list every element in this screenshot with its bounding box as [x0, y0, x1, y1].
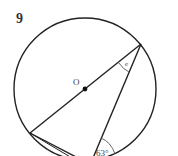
- center-label: O: [73, 77, 80, 87]
- angle-63-label: 63°: [96, 148, 109, 156]
- angle-e-label: e: [125, 60, 128, 68]
- circle-diagram: O e 63°: [0, 0, 178, 156]
- center-point: [83, 87, 88, 92]
- chord-top-to-bottom: [93, 44, 141, 156]
